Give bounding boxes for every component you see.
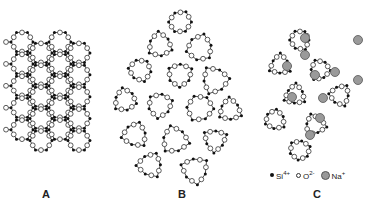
legend-label-na: Na+ [332,170,346,181]
o-circle-icon [296,173,301,178]
si-dot-icon [270,173,274,177]
legend-item-na: Na+ [321,170,346,181]
panel-label-b: B [178,188,186,200]
panel-c-soda-glass-network [264,29,363,161]
panel-label-a: A [42,188,50,200]
legend-label-si: Si4+ [276,170,290,181]
na-ion-icon [321,171,330,180]
legend: Si4+ O2- Na+ [270,170,345,181]
legend-item-o: O2- [296,170,315,181]
panel-b-glass-network [113,10,243,186]
panel-a-crystalline-lattice [4,30,92,152]
legend-item-si: Si4+ [270,170,290,181]
panel-label-c: C [313,188,321,200]
legend-label-o: O2- [303,170,315,181]
